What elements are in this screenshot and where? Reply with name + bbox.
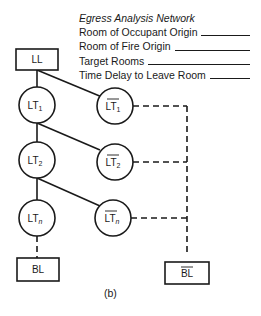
label-bl-bar: BL [181,268,194,279]
label-ll: LL [31,54,43,65]
network-diagram: LL LT1 LT1 LT2 LT2 LTn LTn BL BL [0,0,261,316]
label-bl: BL [32,264,45,275]
figure-caption: (b) [104,287,117,299]
